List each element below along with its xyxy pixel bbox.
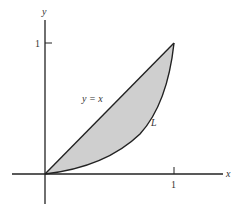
line-label: y = x: [81, 93, 103, 104]
curve-label: L: [150, 117, 157, 128]
y-tick-label: 1: [35, 38, 40, 49]
x-axis-label: x: [225, 168, 231, 179]
x-tick-label: 1: [171, 179, 176, 190]
y-axis-label: y: [41, 6, 47, 17]
lorenz-curve-diagram: y 1 x 1 y = x L: [0, 0, 241, 210]
